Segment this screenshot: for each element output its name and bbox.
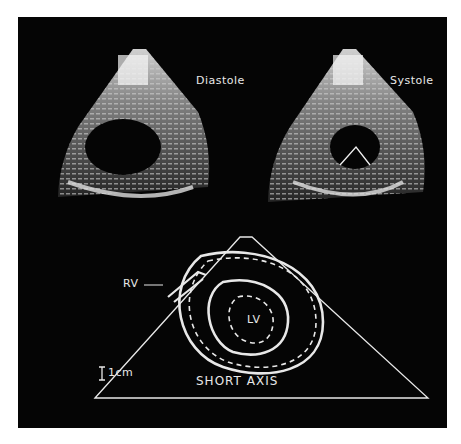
rv-label: RV: [123, 277, 139, 290]
systole-echo-image: [268, 49, 425, 202]
diastole-label: Diastole: [196, 74, 245, 87]
diastole-echo-image: [58, 49, 209, 197]
lv-label: LV: [247, 313, 260, 326]
systole-label: Systole: [390, 74, 434, 87]
diagram-title: SHORT AXIS: [196, 374, 278, 388]
figure-panel: Diastole Systole RV LV 1cm SHORT AXIS: [18, 17, 447, 428]
scale-label: 1cm: [108, 366, 133, 379]
